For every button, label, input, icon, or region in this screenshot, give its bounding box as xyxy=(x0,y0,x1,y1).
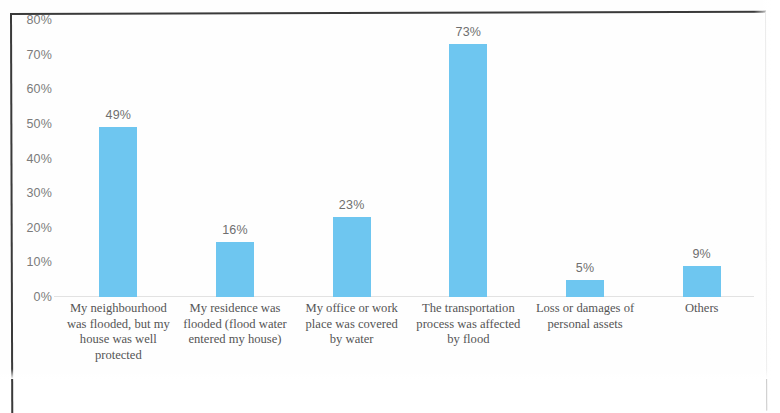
x-axis-label-line: house was well xyxy=(62,332,175,348)
x-axis-label-transportation-affected: The transportation process was affected … xyxy=(410,301,527,348)
x-axis-label-line: My neighbourhood xyxy=(62,301,175,317)
y-axis-tick: 30% xyxy=(26,186,52,200)
x-axis-label-line: by water xyxy=(295,332,408,348)
bar-value-label: 9% xyxy=(692,247,710,261)
y-axis-tick: 20% xyxy=(26,221,52,235)
plot-area: 80% 70% 60% 50% 40% 30% 20% 10% 0% 49% 1… xyxy=(60,20,760,297)
x-axis-label-neighbourhood-flooded: My neighbourhood was flooded, but my hou… xyxy=(60,301,177,363)
bar-slot: 16% xyxy=(177,20,294,297)
bar-value-label: 49% xyxy=(106,108,132,122)
y-axis-tick: 40% xyxy=(26,152,52,166)
bar-slot: 5% xyxy=(527,20,644,297)
bar-slot: 23% xyxy=(293,20,410,297)
x-axis-label-line: flooded (flood water xyxy=(179,317,292,333)
bar-residence-flooded: 16% xyxy=(216,242,254,297)
x-axis-label-line: entered my house) xyxy=(179,332,292,348)
bar-neighbourhood-flooded: 49% xyxy=(99,127,137,297)
bar-value-label: 73% xyxy=(456,25,482,39)
x-axis-label-line: by flood xyxy=(412,332,525,348)
bar-series: 49% 16% 23% 73% 5% xyxy=(60,20,760,297)
x-axis-label-line: process was affected xyxy=(412,317,525,333)
bar-others: 9% xyxy=(683,266,721,297)
x-axis-label-line: place was covered xyxy=(295,317,408,333)
x-axis-label-line: My residence was xyxy=(179,301,292,317)
x-axis-label-others: Others xyxy=(643,301,760,317)
bar-office-covered: 23% xyxy=(333,217,371,297)
x-axis-label-loss-of-assets: Loss or damages of personal assets xyxy=(527,301,644,332)
scan-edge-fade xyxy=(0,369,780,379)
x-axis-label-line: was flooded, but my xyxy=(62,317,175,333)
bar-slot: 9% xyxy=(643,20,760,297)
x-axis-label-line: protected xyxy=(62,348,175,364)
x-axis-label-line: Others xyxy=(645,301,758,317)
bar-value-label: 16% xyxy=(222,223,248,237)
y-axis-tick: 70% xyxy=(26,48,52,62)
x-axis-label-line: My office or work xyxy=(295,301,408,317)
x-axis-label-residence-flooded: My residence was flooded (flood water en… xyxy=(177,301,294,348)
bar-value-label: 23% xyxy=(339,198,365,212)
x-axis-label-line: personal assets xyxy=(529,317,642,333)
x-axis-label-line: The transportation xyxy=(412,301,525,317)
x-axis-labels: My neighbourhood was flooded, but my hou… xyxy=(60,301,760,363)
bar-slot: 73% xyxy=(410,20,527,297)
y-axis-tick: 80% xyxy=(26,13,52,27)
y-axis-tick: 60% xyxy=(26,82,52,96)
y-axis-tick: 10% xyxy=(26,255,52,269)
bar-loss-of-assets: 5% xyxy=(566,280,604,297)
x-axis-label-line: Loss or damages of xyxy=(529,301,642,317)
bar-slot: 49% xyxy=(60,20,177,297)
x-axis-label-office-covered: My office or work place was covered by w… xyxy=(293,301,410,348)
bar-value-label: 5% xyxy=(576,261,594,275)
bar-transportation-affected: 73% xyxy=(449,44,487,297)
y-axis-tick: 0% xyxy=(34,290,52,304)
y-axis-tick: 50% xyxy=(26,117,52,131)
